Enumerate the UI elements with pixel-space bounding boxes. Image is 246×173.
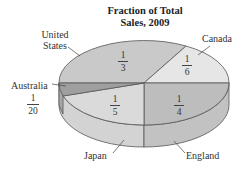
numerator: 1 <box>31 93 36 103</box>
fraction-australia: 120 <box>24 93 42 116</box>
numerator: 1 <box>121 50 126 60</box>
denominator: 5 <box>113 107 118 117</box>
chart-title: Fraction of Total Sales, 2009 <box>95 5 195 29</box>
denominator: 4 <box>177 107 182 117</box>
label-england: England <box>186 150 219 161</box>
label-united-states: United States <box>40 29 70 51</box>
label-japan: Japan <box>84 150 107 161</box>
pie-top <box>59 41 229 125</box>
fraction-england: 14 <box>171 94 187 117</box>
numerator: 1 <box>113 94 118 104</box>
numerator: 1 <box>185 54 190 64</box>
label-canada: Canada <box>202 33 232 44</box>
label-us-line1: United <box>40 29 70 40</box>
fraction-japan: 15 <box>107 94 123 117</box>
title-line-2: Sales, 2009 <box>95 17 195 29</box>
numerator: 1 <box>177 94 182 104</box>
denominator: 6 <box>185 67 190 77</box>
title-line-1: Fraction of Total <box>95 5 195 17</box>
denominator: 20 <box>28 106 38 116</box>
fraction-united-states: 13 <box>115 50 131 73</box>
label-us-line2: States <box>40 40 70 51</box>
denominator: 3 <box>121 63 126 73</box>
fraction-canada: 16 <box>179 54 195 77</box>
label-australia: Australia <box>11 80 48 91</box>
